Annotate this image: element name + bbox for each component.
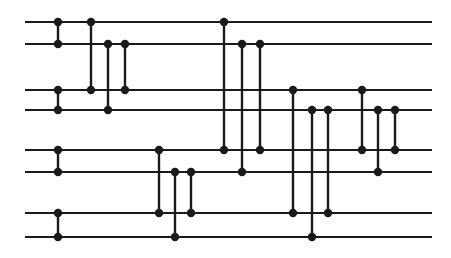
comparator-18 — [374, 106, 382, 176]
comparator-node-bottom — [374, 168, 382, 176]
comparator-node-top — [324, 106, 332, 114]
comparator-3 — [54, 146, 62, 176]
comparator-16 — [324, 106, 332, 217]
comparator-node-top — [308, 106, 316, 114]
comparator-node-bottom — [391, 146, 399, 154]
comparator-5 — [87, 18, 95, 94]
comparator-10 — [187, 168, 195, 217]
comparator-node-top — [374, 106, 382, 114]
comparator-13 — [256, 40, 264, 154]
comparator-15 — [308, 106, 316, 241]
comparator-node-top — [171, 168, 179, 176]
comparator-node-top — [289, 86, 297, 94]
comparator-node-top — [54, 209, 62, 217]
comparator-node-top — [220, 18, 228, 26]
sorting-network-canvas — [0, 0, 451, 258]
comparator-12 — [238, 40, 246, 176]
comparator-4 — [54, 209, 62, 241]
comparator-node-bottom — [54, 40, 62, 48]
comparator-node-bottom — [104, 106, 112, 114]
comparator-node-top — [104, 40, 112, 48]
comparator-node-bottom — [171, 233, 179, 241]
comparator-node-bottom — [220, 146, 228, 154]
comparator-node-bottom — [289, 209, 297, 217]
comparator-6 — [104, 40, 112, 114]
sorting-network-figure — [0, 0, 451, 258]
comparator-7 — [121, 40, 129, 94]
comparator-2 — [54, 86, 62, 114]
comparator-node-bottom — [54, 168, 62, 176]
comparator-node-bottom — [121, 86, 129, 94]
comparator-node-top — [358, 86, 366, 94]
comparator-node-top — [121, 40, 129, 48]
comparator-node-top — [238, 40, 246, 48]
comparator-node-bottom — [187, 209, 195, 217]
comparator-node-top — [87, 18, 95, 26]
comparator-11 — [220, 18, 228, 154]
comparator-17 — [358, 86, 366, 154]
comparator-node-top — [391, 106, 399, 114]
wire-lines-group — [25, 22, 432, 237]
comparator-14 — [289, 86, 297, 217]
comparator-node-bottom — [308, 233, 316, 241]
comparator-node-bottom — [324, 209, 332, 217]
comparator-node-top — [256, 40, 264, 48]
comparator-node-bottom — [54, 233, 62, 241]
comparator-node-bottom — [87, 86, 95, 94]
comparator-node-bottom — [238, 168, 246, 176]
comparator-node-bottom — [155, 209, 163, 217]
comparator-8 — [155, 146, 163, 217]
comparator-node-bottom — [358, 146, 366, 154]
comparator-node-top — [54, 86, 62, 94]
comparator-9 — [171, 168, 179, 241]
comparator-node-top — [54, 146, 62, 154]
comparator-node-top — [54, 18, 62, 26]
comparator-node-top — [187, 168, 195, 176]
comparators-group — [54, 18, 399, 241]
comparator-node-bottom — [54, 106, 62, 114]
comparator-1 — [54, 18, 62, 48]
comparator-node-top — [155, 146, 163, 154]
comparator-node-bottom — [256, 146, 264, 154]
comparator-19 — [391, 106, 399, 154]
